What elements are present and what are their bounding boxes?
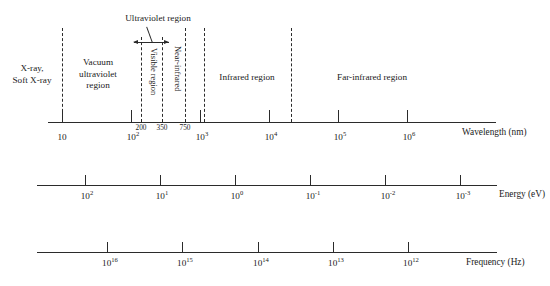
frequency-tick-4 xyxy=(333,242,334,252)
frequency-tick-label-3: 1014 xyxy=(253,259,269,268)
energy-axis-title: Energy (eV) xyxy=(499,190,545,199)
frequency-tick-2 xyxy=(182,242,183,252)
wavelength-tick-3 xyxy=(200,110,201,122)
energy-tick-label-3: 100 xyxy=(231,192,243,201)
frequency-tick-mantissa-2: 10 xyxy=(177,258,186,268)
frequency-tick-exp-3: 14 xyxy=(262,256,269,263)
energy-tick-1 xyxy=(85,175,86,185)
energy-tick-exp-6: -3 xyxy=(465,189,471,196)
frequency-tick-label-5: 1012 xyxy=(403,259,419,268)
energy-tick-2 xyxy=(160,175,161,185)
energy-tick-label-4: 10-1 xyxy=(306,192,321,201)
frequency-axis-line xyxy=(37,252,497,253)
wavelength-tick-label-4: 104 xyxy=(265,133,277,142)
frequency-tick-1 xyxy=(107,242,108,252)
energy-tick-label-5: 10-2 xyxy=(381,192,396,201)
energy-tick-4 xyxy=(310,175,311,185)
region-label-visible: Visible region xyxy=(149,48,157,95)
wavelength-axis-line xyxy=(48,122,496,123)
frequency-tick-exp-5: 12 xyxy=(412,256,419,263)
ultraviolet-arrowhead-left xyxy=(133,40,138,44)
wavelength-tick-mantissa-3: 10 xyxy=(196,132,205,142)
wavelength-tick-exp-4: 4 xyxy=(274,130,277,137)
frequency-tick-exp-1: 16 xyxy=(111,256,118,263)
wavelength-tick-mantissa-6: 10 xyxy=(403,132,412,142)
wavelength-tick-label-6: 106 xyxy=(403,133,415,142)
frequency-tick-mantissa-5: 10 xyxy=(403,258,412,268)
energy-tick-label-6: 10-3 xyxy=(456,192,471,201)
frequency-tick-5 xyxy=(408,242,409,252)
energy-tick-mantissa-5: 10 xyxy=(381,191,390,201)
energy-tick-mantissa-1: 10 xyxy=(81,191,90,201)
ultraviolet-arrowhead-right xyxy=(164,40,169,44)
ultraviolet-leader-line xyxy=(146,27,153,43)
region-label-xray: X-ray, Soft X-ray xyxy=(12,63,51,86)
wavelength-tick-exp-6: 6 xyxy=(412,130,415,137)
wavelength-tick-mantissa-1: 10 xyxy=(57,132,66,142)
frequency-tick-label-2: 1015 xyxy=(177,259,193,268)
region-label-infrared: Infrared region xyxy=(219,72,274,84)
energy-axis-line xyxy=(37,185,497,186)
boundary-dash-xray-vacuumuv xyxy=(62,28,63,122)
region-label-vacuum-ultraviolet: Vacuum ultraviolet region xyxy=(79,57,117,92)
frequency-tick-3 xyxy=(258,242,259,252)
region-label-near-infrared: Near-infrared xyxy=(173,46,181,91)
frequency-tick-label-4: 1013 xyxy=(328,259,344,268)
wavelength-tick-mantissa-2: 10 xyxy=(127,132,136,142)
frequency-tick-mantissa-4: 10 xyxy=(328,258,337,268)
wavelength-minor-label-350: 350 xyxy=(157,124,168,131)
energy-tick-mantissa-6: 10 xyxy=(456,191,465,201)
wavelength-tick-6 xyxy=(407,110,408,122)
wavelength-tick-exp-5: 5 xyxy=(343,130,346,137)
boundary-dash-nearir-infrared xyxy=(204,28,205,122)
wavelength-minor-label-200: 200 xyxy=(136,124,147,131)
energy-tick-exp-3: 0 xyxy=(240,189,243,196)
energy-tick-5 xyxy=(385,175,386,185)
spectrum-chart: 10 102 103 104 105 106 200 350 750 Wavel… xyxy=(0,0,550,286)
boundary-dash-infrared-farinfrared xyxy=(291,28,292,122)
boundary-dash-vacuumuv-uv xyxy=(141,37,142,122)
wavelength-tick-mantissa-4: 10 xyxy=(265,132,274,142)
frequency-tick-label-1: 1016 xyxy=(102,259,118,268)
wavelength-tick-exp-3: 3 xyxy=(205,130,208,137)
wavelength-tick-label-2: 102 xyxy=(127,133,139,142)
energy-tick-exp-4: -1 xyxy=(315,189,321,196)
boundary-dash-visible-nearir xyxy=(185,28,186,122)
energy-tick-exp-1: 2 xyxy=(90,189,93,196)
frequency-tick-exp-2: 15 xyxy=(186,256,193,263)
frequency-tick-mantissa-1: 10 xyxy=(102,258,111,268)
wavelength-tick-4 xyxy=(269,110,270,122)
energy-tick-exp-2: 1 xyxy=(165,189,168,196)
wavelength-axis-title: Wavelength (nm) xyxy=(462,128,527,137)
energy-tick-3 xyxy=(235,175,236,185)
energy-tick-label-2: 101 xyxy=(156,192,168,201)
region-label-ultraviolet: Ultraviolet region xyxy=(125,14,191,23)
wavelength-tick-2 xyxy=(131,110,132,122)
energy-tick-exp-5: -2 xyxy=(390,189,396,196)
wavelength-tick-label-3: 103 xyxy=(196,133,208,142)
boundary-dash-uv-visible xyxy=(162,37,163,122)
energy-tick-label-1: 102 xyxy=(81,192,93,201)
energy-tick-mantissa-4: 10 xyxy=(306,191,315,201)
energy-tick-mantissa-2: 10 xyxy=(156,191,165,201)
wavelength-tick-label-5: 105 xyxy=(334,133,346,142)
region-label-far-infrared: Far-infrared region xyxy=(337,72,407,84)
energy-tick-6 xyxy=(460,175,461,185)
frequency-tick-mantissa-3: 10 xyxy=(253,258,262,268)
wavelength-tick-mantissa-5: 10 xyxy=(334,132,343,142)
wavelength-minor-label-750: 750 xyxy=(180,124,191,131)
wavelength-tick-5 xyxy=(338,110,339,122)
frequency-tick-exp-4: 13 xyxy=(337,256,344,263)
energy-tick-mantissa-3: 10 xyxy=(231,191,240,201)
wavelength-tick-label-1: 10 xyxy=(57,133,66,142)
frequency-axis-title: Frequency (Hz) xyxy=(466,258,525,267)
